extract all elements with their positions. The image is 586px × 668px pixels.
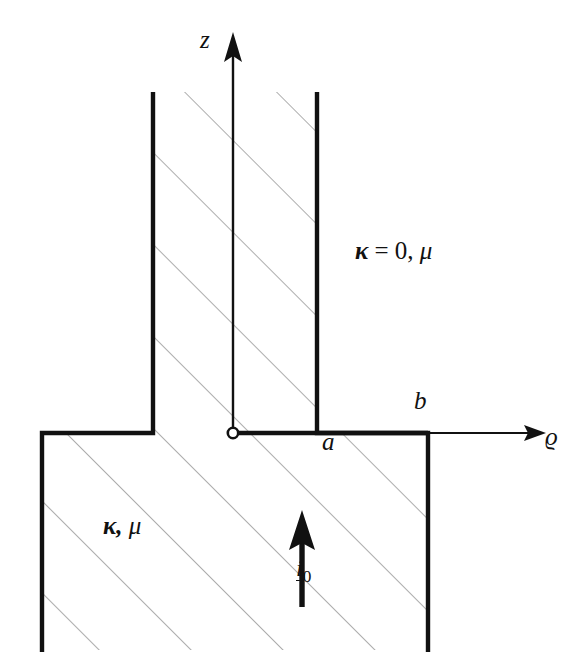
- current-subscript: 0: [303, 567, 312, 586]
- rho-axis-label: ϱ: [545, 424, 558, 449]
- current-label: i0: [296, 556, 311, 585]
- radius-a-label: a: [322, 429, 335, 454]
- kappa-symbol: κ,: [103, 512, 123, 539]
- z-axis-label: z: [200, 27, 210, 52]
- origin-icon: [228, 428, 238, 438]
- kappa-symbol: κ: [355, 237, 368, 264]
- equals-symbol: =: [375, 237, 389, 264]
- mu-symbol: μ: [420, 237, 433, 264]
- radius-b-label: b: [414, 388, 427, 413]
- non-conducting-region-label: κ = 0, μ: [355, 238, 432, 263]
- mu-symbol: μ: [129, 512, 142, 539]
- diagram-svg: [0, 0, 586, 668]
- hatched-material-fill: [30, 80, 450, 665]
- current-symbol: i: [296, 557, 303, 581]
- figure-canvas: z ϱ a b κ = 0, μ κ, μ i0: [0, 0, 586, 668]
- conducting-region-label: κ, μ: [103, 513, 141, 538]
- kappa-value: 0,: [395, 237, 414, 264]
